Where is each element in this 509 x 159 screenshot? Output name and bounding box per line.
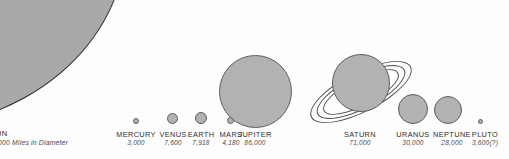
sun-name: UN — [0, 130, 68, 139]
jupiter-disc — [219, 55, 292, 128]
earth-disc — [195, 112, 207, 124]
saturn-diameter: 71,000 — [337, 139, 383, 146]
venus-disc — [167, 113, 178, 124]
solar-system-scale-diagram: UN ,000 Miles in Diameter MERCURY 3,000 … — [0, 0, 509, 159]
pluto-diameter: 3,600(?) — [464, 139, 506, 146]
pluto-label: PLUTO 3,600(?) — [464, 131, 506, 146]
sun-disc — [0, 0, 126, 130]
sun-label: UN ,000 Miles in Diameter — [0, 130, 68, 147]
jupiter-diameter: 86,000 — [231, 139, 279, 146]
saturn-disc — [332, 54, 390, 112]
saturn-label: SATURN 71,000 — [337, 131, 383, 146]
mercury-disc — [133, 118, 139, 124]
sun-diameter: ,000 Miles in Diameter — [0, 139, 68, 147]
neptune-disc — [434, 96, 462, 124]
jupiter-name: JUPITER — [231, 131, 279, 139]
pluto-disc — [478, 119, 483, 124]
saturn-name: SATURN — [337, 131, 383, 139]
jupiter-label: JUPITER 86,000 — [231, 131, 279, 146]
uranus-disc — [398, 94, 428, 124]
pluto-name: PLUTO — [464, 131, 506, 139]
